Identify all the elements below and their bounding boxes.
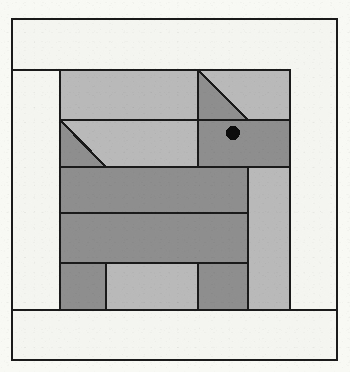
leg-gap-light bbox=[106, 263, 198, 310]
pattern-diagram-canvas: Scottie Dog Quilt Block bbox=[0, 0, 350, 372]
row-2-head-face bbox=[60, 120, 290, 167]
body-lower-dark bbox=[60, 213, 248, 263]
bottom-border-strip bbox=[12, 310, 337, 360]
quilt-block-diagram bbox=[0, 0, 350, 372]
front-leg-column-light-2 bbox=[248, 213, 290, 263]
front-leg-column-light bbox=[248, 167, 290, 213]
back-top-light bbox=[60, 70, 198, 120]
row-3-body-upper bbox=[60, 167, 290, 213]
row-4-body-lower bbox=[60, 213, 290, 263]
right-border-strip bbox=[290, 70, 337, 310]
hind-leg-dark bbox=[60, 263, 106, 310]
front-leg-dark bbox=[198, 263, 248, 310]
left-border-strip bbox=[12, 70, 60, 310]
face-dark bbox=[198, 120, 290, 167]
top-border-strip bbox=[12, 19, 337, 70]
eye-dot bbox=[226, 126, 240, 140]
head-top-right-light bbox=[248, 70, 290, 120]
row-5-legs bbox=[60, 263, 290, 310]
tail-column-light bbox=[248, 263, 290, 310]
row-1-head-top bbox=[60, 70, 290, 120]
body-upper-dark bbox=[60, 167, 248, 213]
